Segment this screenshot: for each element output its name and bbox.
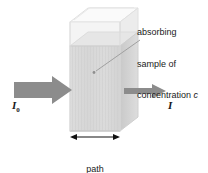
callout-line-2: sample of xyxy=(137,59,198,70)
path-length-dimension xyxy=(70,134,120,140)
cuvette-sample-section xyxy=(70,22,138,131)
absorption-diagram-figure: absorbing sample of concentration c path… xyxy=(0,0,208,173)
callout-line-3-prefix: concentration xyxy=(137,90,194,100)
incident-intensity-label: I0 xyxy=(12,99,20,114)
path-length-caption: path length l xyxy=(64,143,126,173)
sample-front-face-texture xyxy=(70,46,120,131)
transmitted-intensity-label: I xyxy=(168,99,172,111)
path-length-line-1: path xyxy=(64,164,126,173)
sample-right-face xyxy=(120,32,138,131)
callout-line-1: absorbing xyxy=(137,27,198,38)
incident-light-arrow xyxy=(14,76,72,104)
incident-intensity-subscript: 0 xyxy=(16,106,20,114)
concentration-symbol: c xyxy=(194,90,199,100)
